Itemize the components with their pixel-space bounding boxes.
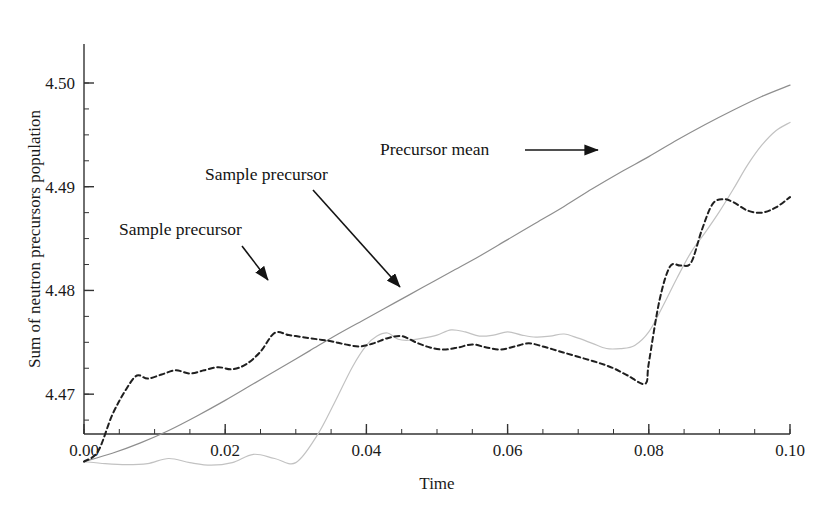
y-axis-title: Sum of neutron precursors population (25, 110, 44, 368)
series-line-1 (84, 122, 790, 465)
x-axis-tick-label: 0.04 (352, 441, 382, 460)
y-axis-tick-label: 4.49 (45, 178, 75, 197)
annot-precursor-mean-text: Precursor mean (380, 139, 490, 159)
annot-sample-precursor-left-arrow (242, 246, 268, 280)
x-axis-tick-label: 0.06 (493, 441, 523, 460)
annot-sample-precursor-left-text: Sample precursor (119, 219, 242, 239)
x-axis-title: Time (419, 474, 454, 493)
y-axis-tick-label: 4.48 (45, 281, 75, 300)
y-axis-tick-label: 4.47 (45, 385, 75, 404)
x-axis-tick-label: 0.10 (775, 441, 805, 460)
x-axis-tick-label: 0.02 (210, 441, 240, 460)
y-axis-tick-label: 4.50 (45, 74, 75, 93)
annot-sample-precursor-mid-arrow (313, 190, 400, 287)
chart-canvas: 0.000.020.040.060.080.104.474.484.494.50… (0, 0, 829, 511)
annot-sample-precursor-mid-text: Sample precursor (205, 164, 328, 184)
x-axis-tick-label: 0.08 (634, 441, 664, 460)
chart-figure: 0.000.020.040.060.080.104.474.484.494.50… (0, 0, 829, 511)
annotations-group: Sample precursorSample precursorPrecurso… (119, 139, 598, 287)
x-axis-tick-label: 0.00 (69, 441, 99, 460)
